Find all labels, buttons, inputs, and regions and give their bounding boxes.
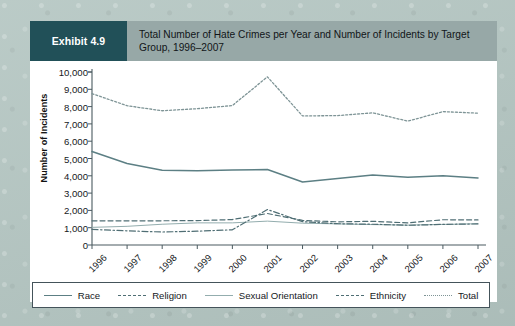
legend-item[interactable]: Sexual Orientation xyxy=(196,290,327,301)
plot-area: Number of Incidents 10,0009,0008,0007,00… xyxy=(30,61,497,302)
legend-label: Total xyxy=(458,290,478,301)
legend-label: Sexual Orientation xyxy=(239,290,318,301)
exhibit-figure: Exhibit 4.9 Total Number of Hate Crimes … xyxy=(0,0,515,326)
exhibit-header: Exhibit 4.9 Total Number of Hate Crimes … xyxy=(30,21,497,61)
series-line xyxy=(92,77,478,121)
legend-swatch-icon xyxy=(205,295,233,296)
series-line xyxy=(92,152,478,182)
exhibit-title: Total Number of Hate Crimes per Year and… xyxy=(127,21,497,61)
legend-swatch-icon xyxy=(44,295,72,296)
chart-panel: Number of Incidents 10,0009,0008,0007,00… xyxy=(30,61,497,302)
legend-item[interactable]: Ethnicity xyxy=(327,290,415,301)
chart-legend: RaceReligionSexual OrientationEthnicityT… xyxy=(32,282,490,308)
legend-item[interactable]: Total xyxy=(415,290,487,301)
legend-swatch-icon xyxy=(424,295,452,296)
legend-swatch-icon xyxy=(118,295,146,296)
series-line xyxy=(92,214,478,223)
legend-label: Race xyxy=(78,290,100,301)
legend-label: Ethnicity xyxy=(370,290,406,301)
exhibit-badge-label: Exhibit 4.9 xyxy=(52,35,106,47)
legend-swatch-icon xyxy=(336,295,364,296)
exhibit-badge: Exhibit 4.9 xyxy=(30,21,127,61)
legend-item[interactable]: Race xyxy=(35,290,109,301)
legend-item[interactable]: Religion xyxy=(109,290,196,301)
legend-label: Religion xyxy=(152,290,187,301)
